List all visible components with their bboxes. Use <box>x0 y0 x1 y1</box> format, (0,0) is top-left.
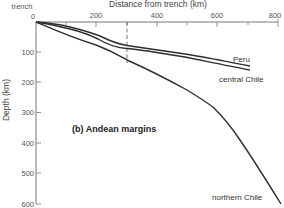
y-tick-labels: 100 200 300 400 500 600 <box>21 48 34 208</box>
trench-label: trench <box>12 2 33 11</box>
subduction-depth-chart: Distance from trench (km) trench 0 200 4… <box>0 0 284 208</box>
y-axis-title: Depth (km) <box>1 79 11 121</box>
x-axis-title: Distance from trench (km) <box>109 0 207 9</box>
svg-text:400: 400 <box>151 11 164 20</box>
svg-text:200: 200 <box>90 11 103 20</box>
series-line-northern-chile <box>36 22 281 204</box>
svg-text:600: 600 <box>211 11 224 20</box>
svg-text:400: 400 <box>21 139 34 148</box>
svg-text:600: 600 <box>21 200 34 208</box>
x-ticks <box>66 19 278 27</box>
label-central-chile: central Chile <box>219 75 264 84</box>
label-northern-chile: northern Chile <box>212 193 263 202</box>
svg-text:300: 300 <box>21 108 34 117</box>
x-tick-labels: 0 200 400 600 800 <box>31 11 281 21</box>
svg-text:200: 200 <box>21 78 34 87</box>
svg-text:0: 0 <box>31 12 35 21</box>
svg-text:100: 100 <box>21 48 34 57</box>
label-peru: Peru <box>233 55 250 64</box>
panel-title: (b) Andean margins <box>72 124 156 134</box>
svg-text:500: 500 <box>21 169 34 178</box>
series-line-central-chile <box>36 22 250 70</box>
svg-text:800: 800 <box>269 11 282 20</box>
y-ticks <box>36 52 41 204</box>
